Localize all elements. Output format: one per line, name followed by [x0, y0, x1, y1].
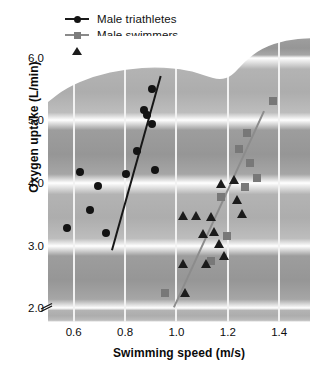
plot-area: [48, 36, 310, 322]
data-point-triangle: [237, 209, 247, 218]
data-point-circle: [102, 229, 110, 237]
data-point-circle: [151, 166, 159, 174]
data-point-circle: [76, 168, 84, 176]
wavy-top-mask: [48, 36, 310, 156]
data-point-triangle: [178, 211, 188, 220]
x-tick-label: 0.6: [66, 326, 82, 338]
x-tick-label: 0.8: [117, 326, 133, 338]
data-point-triangle: [191, 211, 201, 220]
y-tick-label: 3.0: [10, 240, 44, 252]
data-point-square: [161, 289, 169, 297]
data-point-triangle: [219, 251, 229, 260]
data-point-circle: [122, 170, 130, 178]
triangle-marker-icon: [72, 47, 82, 55]
x-tick-label: 1.2: [220, 326, 236, 338]
circle-marker-icon: [74, 16, 81, 23]
x-axis-label: Swimming speed (m/s): [48, 346, 310, 360]
data-point-triangle: [201, 259, 211, 268]
data-point-triangle: [229, 175, 239, 184]
data-point-triangle: [198, 229, 208, 238]
data-point-triangle: [178, 259, 188, 268]
scatter-plot-figure: Male triathletes Male swimmers Female sw…: [0, 0, 326, 371]
x-axis-ticks: 0.60.81.01.21.4: [48, 326, 310, 342]
y-axis-label: Oxygen uptake (L/min): [27, 27, 41, 227]
square-marker-icon: [74, 32, 81, 39]
x-tick-label: 1.0: [168, 326, 184, 338]
data-point-triangle: [206, 212, 216, 221]
data-point-triangle: [214, 239, 224, 248]
data-point-triangle: [209, 227, 219, 236]
legend-label-male-triathletes: Male triathletes: [97, 13, 177, 25]
data-point-triangle: [216, 179, 226, 188]
axis-break-icon: [39, 300, 55, 314]
data-point-square: [246, 159, 254, 167]
data-point-square: [217, 193, 225, 201]
data-point-square: [253, 174, 261, 182]
legend-item-male-triathletes: Male triathletes: [62, 12, 242, 26]
data-point-triangle: [232, 195, 242, 204]
data-point-square: [241, 183, 249, 191]
background-band: [48, 246, 310, 309]
data-point-triangle: [180, 288, 190, 297]
x-tick-label: 1.4: [271, 326, 287, 338]
background-band: [48, 308, 310, 322]
legend-key-male-triathletes: [62, 16, 92, 23]
